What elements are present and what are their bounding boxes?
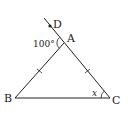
angle-arc-a [57,38,60,49]
triangle-diagram: D A B C 100° x [0,0,128,113]
angle-arc-c [101,91,104,98]
label-a: A [66,32,76,45]
label-c: C [112,94,120,107]
label-angle-x: x [92,88,97,98]
label-b: B [4,92,12,105]
point-d [48,24,51,27]
label-angle-100: 100° [33,39,55,49]
label-d: D [53,18,62,31]
